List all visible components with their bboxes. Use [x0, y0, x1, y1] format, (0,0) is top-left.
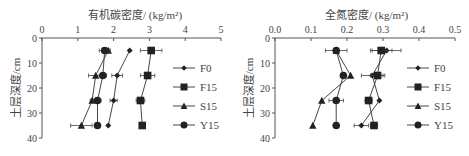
- circle-marker: [340, 72, 348, 80]
- triangle-marker: [347, 72, 354, 79]
- legend: F0F15S15Y15: [173, 62, 219, 131]
- diamond-marker: [415, 65, 420, 70]
- legend-item-f0: F0: [173, 62, 212, 74]
- square-marker: [137, 97, 145, 105]
- triangle-marker: [309, 122, 316, 129]
- carbon-density-chart: 有机碳密度/ (kg/m²) 012345010203040土层深度/cmF0F…: [0, 0, 235, 156]
- x-tick-label: 0.1: [305, 24, 318, 35]
- diamond-marker: [376, 98, 382, 104]
- y-tick-label: 20: [27, 83, 37, 94]
- circle-marker: [99, 72, 107, 80]
- square-marker: [147, 47, 155, 55]
- square-marker: [144, 72, 152, 80]
- legend-item-s15: S15: [407, 100, 452, 112]
- series-f15: [136, 47, 162, 130]
- legend-item-y15: Y15: [173, 119, 219, 131]
- y-tick-label: 40: [27, 133, 37, 144]
- square-marker: [374, 72, 382, 80]
- y-tick-label: 30: [260, 108, 270, 119]
- legend-item-f15: F15: [407, 81, 452, 93]
- chart-plot: 012345010203040土层深度/cmF0F15S15Y15: [0, 0, 235, 156]
- circle-marker: [332, 97, 340, 105]
- diamond-marker: [358, 123, 364, 129]
- legend-label: F15: [200, 81, 218, 93]
- x-tick-label: 0.0: [269, 24, 282, 35]
- circle-marker: [181, 122, 188, 129]
- chart-title: 有机碳密度/ (kg/m²): [88, 6, 182, 22]
- square-marker: [181, 84, 188, 91]
- circle-marker: [332, 47, 340, 55]
- square-marker: [365, 97, 373, 105]
- series-y15: [94, 47, 110, 130]
- square-marker: [415, 84, 422, 91]
- legend-item-f15: F15: [173, 81, 218, 93]
- series-f0: [105, 48, 132, 129]
- square-marker: [377, 47, 385, 55]
- square-marker: [370, 122, 378, 130]
- legend-item-y15: Y15: [407, 119, 453, 131]
- circle-marker: [332, 122, 340, 130]
- chart-plot: 0.00.10.20.30.40.5010203040土层深度/cmF0F15S…: [235, 0, 469, 156]
- legend-item-s15: S15: [173, 100, 218, 112]
- circle-marker: [101, 47, 109, 55]
- x-tick-label: 1: [75, 24, 80, 35]
- x-tick-label: 0.4: [413, 24, 426, 35]
- legend-label: F15: [434, 81, 452, 93]
- y-tick-label: 10: [260, 58, 270, 69]
- square-marker: [138, 122, 146, 130]
- circle-marker: [94, 122, 102, 130]
- legend-label: Y15: [434, 119, 453, 131]
- diamond-marker: [181, 65, 186, 70]
- diamond-marker: [111, 98, 117, 104]
- x-tick-label: 0.5: [449, 24, 462, 35]
- series-s15: [71, 47, 112, 129]
- y-tick-label: 10: [27, 58, 37, 69]
- legend-label: S15: [200, 100, 218, 112]
- y-tick-label: 0: [265, 33, 270, 44]
- diamond-marker: [105, 123, 111, 129]
- circle-marker: [94, 97, 102, 105]
- x-tick-label: 0.2: [341, 24, 354, 35]
- legend-label: Y15: [200, 119, 219, 131]
- chart-title: 全氮密度/ (kg/m²): [325, 6, 408, 22]
- legend-label: F0: [200, 62, 212, 74]
- x-tick-label: 3: [147, 24, 152, 35]
- x-tick-label: 2: [111, 24, 116, 35]
- y-tick-label: 40: [260, 133, 270, 144]
- series-s15: [309, 47, 354, 129]
- y-tick-label: 0: [32, 33, 37, 44]
- y-axis-label: 土层深度/cm: [242, 57, 255, 118]
- legend-label: F0: [434, 62, 446, 74]
- diamond-marker: [114, 73, 120, 79]
- series-f0: [354, 48, 401, 129]
- y-tick-label: 20: [260, 83, 270, 94]
- series-f15: [365, 47, 392, 130]
- x-tick-label: 4: [183, 24, 188, 35]
- nitrogen-density-chart: 全氮密度/ (kg/m²) 0.00.10.20.30.40.501020304…: [235, 0, 469, 156]
- diamond-marker: [127, 48, 133, 54]
- x-tick-label: 5: [219, 24, 224, 35]
- x-tick-label: 0: [40, 24, 45, 35]
- legend-item-f0: F0: [407, 62, 446, 74]
- y-tick-label: 30: [27, 108, 37, 119]
- legend: F0F15S15Y15: [407, 62, 453, 131]
- circle-marker: [415, 122, 422, 129]
- y-axis-label: 土层深度/cm: [9, 57, 22, 118]
- legend-label: S15: [434, 100, 452, 112]
- x-tick-label: 0.3: [377, 24, 390, 35]
